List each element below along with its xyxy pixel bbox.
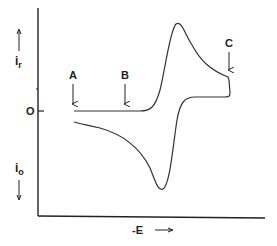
switching-segment (224, 80, 230, 97)
ir-label: ir (15, 54, 22, 70)
io-label: io (15, 161, 24, 177)
label-C: C (225, 37, 233, 49)
label-B: B (121, 69, 129, 81)
x-axis (38, 216, 265, 218)
cyclic-voltammogram: ir O io A B C -E (0, 0, 277, 246)
zero-label: O (26, 105, 35, 117)
x-axis-label: -E (132, 224, 143, 236)
label-A: A (69, 69, 77, 81)
forward-scan-curve (74, 23, 229, 111)
